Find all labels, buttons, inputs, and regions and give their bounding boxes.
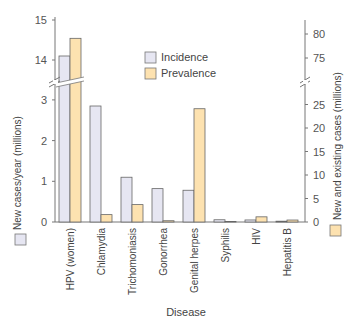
- bar-incidence: [183, 190, 194, 222]
- bar-incidence: [152, 189, 163, 222]
- category-label: Hepatitis B: [282, 228, 293, 277]
- left-tick-label: 2: [41, 135, 47, 147]
- right-tick-label: 10: [313, 169, 325, 181]
- right-tick-label: 80: [313, 28, 325, 40]
- right-tick-label: 15: [313, 146, 325, 158]
- right-tick-label: 25: [313, 99, 325, 111]
- category-label: HPV (women): [65, 228, 76, 290]
- bar-incidence: [121, 177, 132, 222]
- right-tick-label: 20: [313, 122, 325, 134]
- category-label: Chlamydia: [96, 228, 107, 276]
- legend-label-incidence: Incidence: [161, 51, 208, 63]
- bar-incidence: [90, 106, 101, 222]
- legend: Incidence Prevalence: [145, 51, 216, 79]
- bar-prevalence: [101, 215, 112, 222]
- category-label-group: Chlamydia: [96, 228, 107, 276]
- left-tick-label: 3: [41, 94, 47, 106]
- category-label-group: Genital herpes: [189, 228, 200, 293]
- category-label-group: Trichomoniasis: [127, 228, 138, 295]
- bar-prevalence: [287, 220, 298, 222]
- category-label: Genital herpes: [189, 228, 200, 293]
- right-axis-gap: [303, 80, 308, 84]
- legend-label-prevalence: Prevalence: [161, 67, 216, 79]
- right-tick-label: 5: [313, 193, 319, 205]
- right-axis: 05101520257580: [300, 20, 325, 228]
- left-axis-gap: [53, 80, 58, 84]
- category-label: Gonorrhea: [158, 228, 169, 276]
- right-axis-title-group: New and existing cases (millions): [332, 72, 343, 220]
- category-label-group: Gonorrhea: [158, 228, 169, 276]
- legend-swatch-incidence: [145, 52, 156, 63]
- category-label-group: HPV (women): [65, 228, 76, 290]
- left-axis-swatch-incidence: [15, 234, 26, 245]
- bar-incidence: [214, 220, 225, 222]
- bar-prevalence: [132, 205, 143, 222]
- category-labels: HPV (women)ChlamydiaTrichomoniasisGonorr…: [65, 228, 293, 295]
- bar-prevalence: [225, 221, 236, 222]
- legend-swatch-prevalence: [145, 68, 156, 79]
- bar-incidence: [276, 221, 287, 222]
- category-label-group: Syphilis: [220, 228, 231, 262]
- left-tick-label: 0: [41, 216, 47, 228]
- category-label: Syphilis: [220, 228, 231, 262]
- left-tick-label: 14: [35, 54, 47, 66]
- left-tick-label: 1: [41, 175, 47, 187]
- category-label: HIV: [251, 228, 262, 245]
- left-tick-label: 15: [35, 14, 47, 26]
- left-axis: 01231415: [35, 14, 60, 228]
- category-label-group: HIV: [251, 228, 262, 245]
- x-axis-title: Disease: [166, 306, 206, 318]
- right-tick-label: 75: [313, 52, 325, 64]
- plot-area: [55, 38, 305, 222]
- bar-prevalence: [194, 109, 205, 222]
- left-axis-title: New cases/year (millions): [12, 116, 23, 230]
- category-label-group: Hepatitis B: [282, 228, 293, 277]
- right-tick-label: 0: [313, 216, 319, 228]
- right-axis-title: New and existing cases (millions): [332, 72, 343, 220]
- bar-prevalence: [70, 38, 81, 222]
- bar-prevalence: [163, 221, 174, 222]
- chart: 01231415 05101520257580 HPV (women)Chlam…: [0, 0, 361, 328]
- bar-incidence: [245, 220, 256, 222]
- category-label: Trichomoniasis: [127, 228, 138, 295]
- left-axis-title-group: New cases/year (millions): [12, 116, 23, 230]
- bar-prevalence: [256, 217, 267, 222]
- right-axis-swatch-prevalence: [330, 225, 341, 236]
